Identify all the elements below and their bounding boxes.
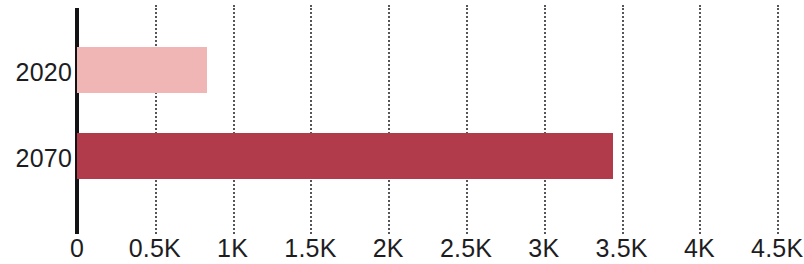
bar-2070[interactable]: [77, 133, 613, 179]
y-axis-label-2070: 2070: [0, 146, 72, 171]
bar-2020[interactable]: [77, 47, 207, 93]
y-axis-line: [75, 8, 79, 234]
x-axis-label-1.5K: 1.5K: [284, 236, 336, 261]
y-axis-label-2020: 2020: [0, 60, 72, 85]
gridline-1.5K: [310, 5, 312, 234]
bar-chart: 20202070 00.5K1K1.5K2K2.5K3K3.5K4K4.5K: [0, 0, 804, 264]
gridline-0.5K: [155, 5, 157, 234]
plot-area: 20202070 00.5K1K1.5K2K2.5K3K3.5K4K4.5K: [0, 0, 804, 264]
gridline-3.5K: [622, 5, 624, 234]
x-axis-label-0: 0: [70, 236, 84, 261]
x-axis-label-2K: 2K: [373, 236, 404, 261]
x-axis-label-3.5K: 3.5K: [595, 236, 647, 261]
gridline-2K: [388, 5, 390, 234]
x-axis-label-3K: 3K: [528, 236, 559, 261]
x-axis-label-2.5K: 2.5K: [440, 236, 492, 261]
gridline-2.5K: [466, 5, 468, 234]
x-axis-label-1K: 1K: [217, 236, 248, 261]
gridline-3K: [544, 5, 546, 234]
x-axis-label-4.5K: 4.5K: [751, 236, 803, 261]
gridline-1K: [233, 5, 235, 234]
x-axis-label-4K: 4K: [684, 236, 715, 261]
x-axis-label-0.5K: 0.5K: [129, 236, 181, 261]
gridline-4.5K: [777, 5, 779, 234]
gridline-4K: [699, 5, 701, 234]
